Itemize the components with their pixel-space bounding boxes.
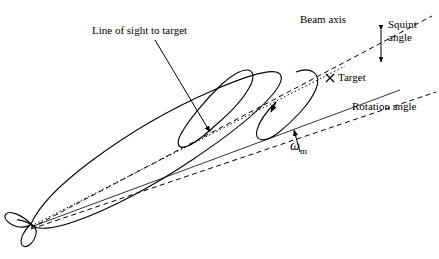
missile-tail-fins xyxy=(5,213,36,247)
label-target: Target xyxy=(338,71,366,83)
label-rotation-angle: Rotation angle xyxy=(352,100,416,112)
diagram-graphics xyxy=(0,0,439,259)
seeker-section-ellipse xyxy=(178,70,253,147)
omega-subscript: m xyxy=(300,146,307,156)
omega-symbol: ω xyxy=(290,138,300,153)
label-omega-m: ωm xyxy=(290,140,307,157)
label-squint-angle-line1: Squint xyxy=(388,18,417,30)
line-of-sight-pointer-arrow xyxy=(155,40,210,132)
missile-body xyxy=(31,72,281,229)
diagram-canvas: Line of sight to target Beam axis Squint… xyxy=(0,0,439,259)
beam-axis-dashed xyxy=(31,16,432,228)
body-axis-solid xyxy=(31,90,400,227)
label-line-of-sight: Line of sight to target xyxy=(92,24,187,36)
label-beam-axis: Beam axis xyxy=(300,13,346,25)
target-marker-icon xyxy=(326,74,334,82)
rotation-arrow-icon xyxy=(257,70,318,140)
label-squint-angle-line2: angle xyxy=(388,31,412,43)
